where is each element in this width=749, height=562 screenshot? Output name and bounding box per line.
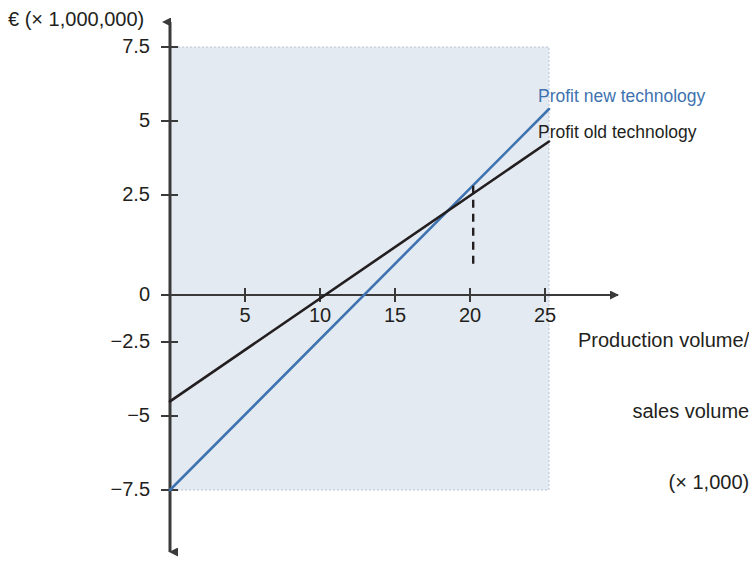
y-tick-label-minus-7-5: −7.5 xyxy=(80,478,150,502)
y-tick-label-7-5: 7.5 xyxy=(80,35,150,59)
y-tick-label-5: 5 xyxy=(80,109,150,133)
x-axis-title: Production volume/ sales volume (× 1,000… xyxy=(578,282,749,542)
legend-label-new-technology: Profit new technology xyxy=(538,86,705,107)
y-tick-label-minus-2-5: −2.5 xyxy=(80,330,150,354)
x-tick-label-20: 20 xyxy=(445,304,495,328)
x-tick-label-5: 5 xyxy=(220,304,270,328)
y-tick-label-2-5: 2.5 xyxy=(80,183,150,207)
plot-background xyxy=(170,47,549,490)
legend-label-old-technology: Profit old technology xyxy=(538,122,697,143)
x-axis-title-line-2: sales volume xyxy=(578,400,749,424)
x-tick-label-10: 10 xyxy=(295,304,345,328)
y-tick-label-minus-5: −5 xyxy=(80,404,150,428)
x-tick-label-25: 25 xyxy=(520,304,570,328)
x-axis-title-line-1: Production volume/ xyxy=(578,329,749,353)
x-tick-label-15: 15 xyxy=(370,304,420,328)
y-axis-title: € (× 1,000,000) xyxy=(8,8,144,32)
y-tick-label-0: 0 xyxy=(80,283,150,307)
x-axis-title-line-3: (× 1,000) xyxy=(578,471,749,495)
